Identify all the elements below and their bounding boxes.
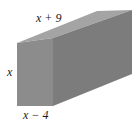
width-label: x − 4 [23,109,48,121]
length-label: x + 9 [36,12,61,24]
front-face [17,38,53,106]
prism-diagram [0,0,140,123]
height-label: x [7,66,12,78]
